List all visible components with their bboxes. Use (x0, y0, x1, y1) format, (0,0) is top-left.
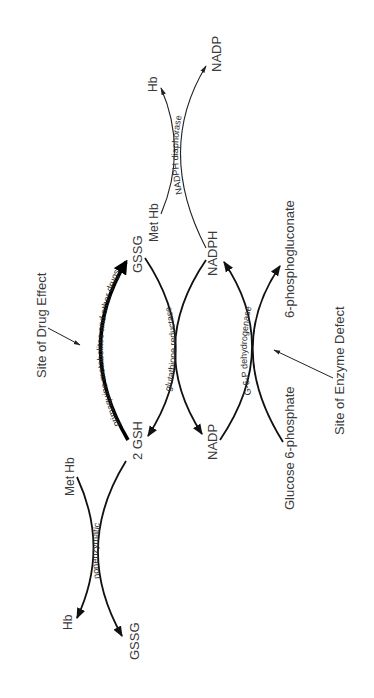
redox-pathway-diagram: NADPH diaphorase Met Hb Hb NADP primaqui… (0, 0, 374, 698)
node-nadph: NADPH (205, 230, 220, 276)
glucose6p-to-6pg-arrow (253, 266, 283, 442)
nadph-to-nadp-arrow (181, 66, 207, 248)
drug-site-pointer (48, 328, 80, 345)
node-nadp-top: NADP (209, 36, 224, 72)
diaphorase-reaction: NADPH diaphorase Met Hb Hb NADP (146, 36, 224, 248)
node-2-gsh: 2 GSH (130, 421, 145, 460)
site-of-enzyme-defect-label: Site of Enzyme Defect (332, 306, 347, 435)
node-methb-top: Met Hb (147, 203, 161, 242)
node-6-phosphogluconate: 6-phosphogluconate (282, 200, 297, 318)
gsh-to-gssg-nonenzymatic-arrow (98, 461, 126, 636)
node-hb-top: Hb (146, 76, 160, 92)
enzyme-label-nonenzymatic: nonenzymatic (90, 522, 102, 580)
nadph-to-nadp-reductase-arrow (175, 260, 206, 434)
node-methb-bottom: Met Hb (63, 457, 77, 496)
nonenzymatic-reaction: nonenzymatic Met Hb Hb GSSG (61, 457, 142, 660)
enzyme-label-drug: primaquine metabolites and other drugs (95, 267, 122, 428)
node-gssg-bottom: GSSG (127, 622, 142, 660)
site-of-drug-effect-label: Site of Drug Effect (34, 272, 49, 378)
node-glucose-6-phosphate: Glucose 6-phosphate (282, 386, 297, 510)
node-hb-bottom: Hb (61, 614, 75, 630)
annotation-drug-site: Site of Drug Effect (34, 272, 80, 378)
node-gssg: GSSG (130, 235, 145, 273)
enzyme-label-glutathione-reductase: glutathione reductase (163, 306, 178, 392)
enzyme-label-diaphorase: NADPH diaphorase (170, 114, 184, 195)
enzyme-site-pointer (274, 350, 333, 378)
node-nadp: NADP (205, 424, 220, 460)
